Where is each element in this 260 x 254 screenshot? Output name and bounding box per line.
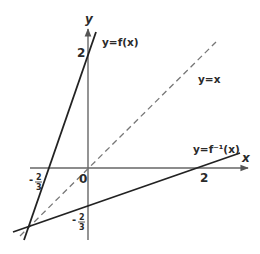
y-axis-label: y <box>85 12 94 26</box>
f-curve <box>24 32 96 240</box>
origin-label: 0 <box>79 172 87 186</box>
fraction-denominator: 3 <box>79 223 85 232</box>
x-axis-label: x <box>241 151 251 165</box>
inverse-function-diagram: y x 0 y=f(x) y=x y=f⁻¹(x) 2 2 - 2 3 - 2 … <box>0 0 260 254</box>
x-intercept-f-inverse-label: 2 <box>200 171 208 185</box>
f-inverse-curve <box>13 153 240 232</box>
fraction-numerator: 2 <box>36 173 42 182</box>
fraction-sign: - <box>72 214 76 225</box>
f-curve-label: y=f(x) <box>102 36 139 48</box>
fraction-denominator: 3 <box>36 183 42 192</box>
x-intercept-f-label: - 2 3 <box>29 173 42 192</box>
identity-line-label: y=x <box>198 73 221 85</box>
fraction-sign: - <box>29 174 33 185</box>
y-intercept-f-label: 2 <box>77 46 85 60</box>
fraction-numerator: 2 <box>79 213 85 222</box>
identity-line <box>20 42 216 236</box>
f-inverse-curve-label: y=f⁻¹(x) <box>193 143 240 155</box>
y-intercept-f-inverse-label: - 2 3 <box>72 213 85 232</box>
